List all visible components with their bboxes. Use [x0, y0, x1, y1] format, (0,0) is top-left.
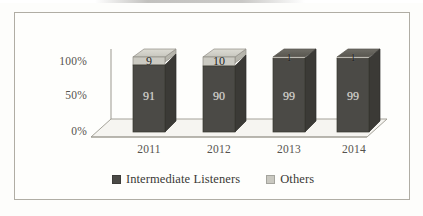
chart-screenshot: 100% 50% 0%	[0, 0, 423, 216]
bar-2014-side-intermediate	[369, 49, 380, 132]
data-label-others-2011: 9	[133, 55, 165, 67]
bar-2011-side-intermediate	[165, 54, 176, 132]
legend-item-intermediate-listeners[interactable]: Intermediate Listeners	[112, 172, 240, 187]
legend-swatch-icon-others	[266, 175, 275, 184]
x-tick-2013: 2013	[259, 143, 319, 155]
data-label-intermediate-2013: 99	[273, 90, 305, 102]
data-label-intermediate-2012: 90	[203, 90, 235, 102]
chart-frame: 100% 50% 0%	[14, 12, 410, 200]
data-label-others-2012: 10	[203, 55, 235, 67]
x-tick-2011: 2011	[119, 143, 179, 155]
data-label-intermediate-2014: 99	[337, 90, 369, 102]
bar-2012-side-intermediate	[235, 55, 246, 132]
plot-area: 100% 50% 0%	[15, 13, 411, 201]
data-label-intermediate-2011: 91	[133, 90, 165, 102]
x-tick-2014: 2014	[324, 143, 384, 155]
legend-label-others: Others	[280, 172, 314, 187]
x-tick-2012: 2012	[189, 143, 249, 155]
legend-label-intermediate: Intermediate Listeners	[126, 172, 240, 187]
x-axis: 2011 2012 2013 2014	[87, 143, 387, 165]
legend-swatch-icon-intermediate	[112, 175, 121, 184]
scan-artifact	[95, 0, 305, 3]
data-label-others-2014: 1	[337, 52, 369, 63]
chart-legend: Intermediate Listeners Others	[15, 168, 411, 190]
bar-2013-side-intermediate	[305, 49, 316, 132]
legend-item-others[interactable]: Others	[266, 172, 314, 187]
data-label-others-2013: 1	[273, 52, 305, 63]
